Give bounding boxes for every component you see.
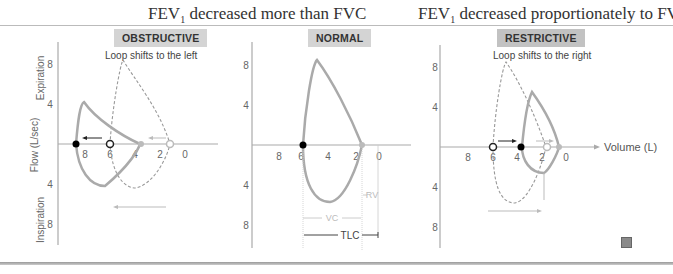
y-tick: 4 bbox=[243, 100, 249, 111]
x-tick: 2 bbox=[157, 149, 163, 160]
x-tick: 8 bbox=[465, 152, 471, 163]
normal-tlc-marker bbox=[490, 144, 497, 151]
x-axis-arrow-icon bbox=[594, 145, 600, 150]
x-axis-label: Volume (L) bbox=[604, 141, 657, 153]
tlc-marker bbox=[73, 141, 80, 148]
y-tick: 8 bbox=[47, 219, 53, 230]
tlc-label: TLC bbox=[341, 230, 360, 241]
normal-tlc-marker bbox=[107, 141, 114, 148]
arrow-right-icon bbox=[537, 209, 542, 213]
y-tick: 4 bbox=[243, 180, 249, 191]
arrow-left-icon bbox=[82, 136, 87, 140]
normal-loop-reference bbox=[110, 60, 170, 188]
flow-volume-diagrams: 8 4 4 8 8 6 4 2 0 Expiration Flow (L/sec… bbox=[0, 0, 673, 274]
x-tick: 0 bbox=[563, 152, 569, 163]
arrow-right-icon bbox=[512, 139, 517, 143]
x-tick: 0 bbox=[182, 149, 188, 160]
y-tick: 4 bbox=[47, 179, 53, 190]
normal-rv-marker bbox=[544, 144, 551, 151]
normal-rv-marker bbox=[167, 141, 174, 148]
y-tick: 8 bbox=[432, 62, 438, 73]
x-tick: 8 bbox=[276, 151, 282, 162]
normal-loop-reference bbox=[493, 62, 546, 203]
arrow-left-icon bbox=[113, 205, 118, 209]
expiration-label: Expiration bbox=[35, 56, 46, 100]
tlc-marker bbox=[518, 144, 525, 151]
arrow-right-icon bbox=[549, 139, 554, 143]
y-tick: 8 bbox=[432, 222, 438, 233]
x-tick: 8 bbox=[82, 149, 88, 160]
rv-label: RV bbox=[366, 190, 378, 200]
tlc-marker bbox=[300, 142, 307, 149]
y-tick: 4 bbox=[432, 102, 438, 113]
panel-normal: 8 4 4 8 8 6 4 2 0 RV VC TLC bbox=[243, 42, 411, 250]
normal-loop bbox=[303, 60, 362, 202]
rv-marker bbox=[556, 144, 562, 150]
y-tick: 4 bbox=[47, 99, 53, 110]
panel-restrictive: Volume (L) 8 4 4 8 8 6 4 2 0 bbox=[432, 45, 657, 248]
y-axis-label: Flow (L/sec) bbox=[29, 118, 40, 172]
y-tick: 4 bbox=[432, 182, 438, 193]
panel-obstructive: 8 4 4 8 8 6 4 2 0 Expiration Flow (L/sec… bbox=[29, 42, 218, 245]
rv-marker bbox=[359, 142, 365, 148]
x-tick: 4 bbox=[325, 151, 331, 162]
inspiration-label: Inspiration bbox=[35, 197, 46, 243]
x-tick: 0 bbox=[376, 151, 382, 162]
y-tick: 8 bbox=[243, 220, 249, 231]
rv-marker bbox=[138, 141, 144, 147]
y-tick: 8 bbox=[243, 60, 249, 71]
resize-icon[interactable] bbox=[621, 237, 632, 248]
x-tick: 4 bbox=[514, 152, 520, 163]
bottom-divider bbox=[0, 262, 673, 265]
arrow-left-icon bbox=[148, 136, 153, 140]
y-tick: 8 bbox=[47, 59, 53, 70]
vc-label: VC bbox=[326, 213, 339, 223]
